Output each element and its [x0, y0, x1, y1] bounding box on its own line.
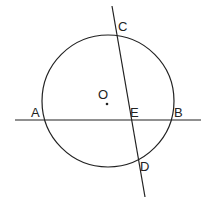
label-A: A	[31, 105, 40, 120]
label-C: C	[118, 19, 127, 34]
geometry-diagram: A B C D E O	[0, 0, 208, 209]
label-D: D	[140, 159, 149, 174]
diagram-svg: A B C D E O	[0, 0, 208, 209]
center-point-O	[106, 103, 109, 106]
label-B: B	[174, 105, 183, 120]
label-E: E	[130, 105, 139, 120]
label-O: O	[98, 87, 108, 102]
